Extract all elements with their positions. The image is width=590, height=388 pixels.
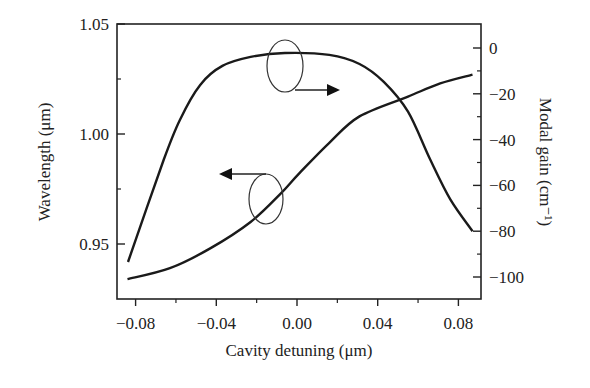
wavelength-annotation [219,168,283,224]
gain-annotation [267,40,340,96]
x-axis-title: Cavity detuning (μm) [226,341,373,360]
right-tick-label: 0 [489,39,498,58]
modal-gain-curve [128,53,473,262]
right-tick-label: −40 [489,131,516,150]
x-tick-label: 0.00 [282,314,312,333]
y-axis-title: Wavelength (μm) [35,103,54,222]
right-arrow-icon [327,84,340,96]
right-tick-label: −80 [489,222,516,241]
plot-frame [117,24,481,299]
left-arrow-icon [219,168,232,180]
x-tick-label: 0.04 [363,314,393,333]
left-tick-label: 1.05 [79,15,109,34]
x-tick-label: −0.04 [197,314,237,333]
wavelength-annotation-ellipse [249,174,283,224]
series-layer [128,53,473,279]
right-tick-label: −20 [489,85,516,104]
x-tick-label: −0.08 [116,314,155,333]
wavelength-curve [128,75,473,280]
left-axis-ticks: 0.951.001.05 [79,15,125,254]
right-tick-label: −100 [489,268,524,287]
left-tick-label: 0.95 [79,235,109,254]
gain-annotation-ellipse [267,40,303,92]
x-tick-label: 0.08 [444,314,474,333]
x-axis-ticks: −0.08−0.040.000.040.08 [116,299,473,333]
left-tick-label: 1.00 [79,125,109,144]
y2-axis-title: Modal gain (cm⁻¹) [536,98,555,226]
dual-axis-line-chart: 0.951.001.05 0−20−40−60−80−100 −0.08−0.0… [0,0,590,388]
right-tick-label: −60 [489,176,516,195]
